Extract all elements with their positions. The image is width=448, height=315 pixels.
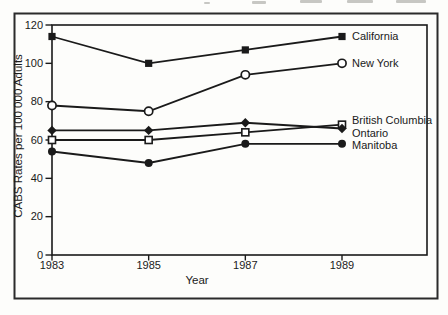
y-tick-label: 40 (31, 172, 43, 184)
cropped-page-text-artifact (347, 0, 373, 3)
x-tick-label: 1987 (233, 259, 257, 271)
new-york-point-1983 (48, 101, 56, 109)
x-tick-label: 1983 (40, 259, 64, 271)
y-axis-title: CABS Rates per 100 000 Adults (12, 54, 24, 218)
series-label-california: California (352, 30, 399, 42)
ontario-point-1987 (241, 118, 250, 127)
california-point-1987 (242, 46, 249, 53)
series-label-ontario: Ontario (352, 127, 388, 139)
y-tick-label: 120 (25, 19, 43, 31)
y-tick-label: 60 (31, 134, 43, 146)
y-tick-label: 80 (31, 95, 43, 107)
new-york-point-1987 (241, 71, 249, 79)
california-point-1989 (338, 33, 345, 40)
series-line-ontario (52, 123, 342, 131)
series-label-british-columbia: British Columbia (352, 114, 433, 126)
cropped-page-text-artifact (252, 1, 266, 4)
scanned-figure-page: 0204060801001201983198519871989YearCABS … (0, 0, 448, 315)
series-line-california (52, 37, 342, 64)
california-point-1985 (145, 60, 152, 67)
series-line-manitoba (52, 144, 342, 163)
ontario-point-1985 (144, 126, 153, 135)
series-label-manitoba: Manitoba (352, 139, 398, 151)
cropped-page-text-artifact (204, 2, 210, 4)
manitoba-point-1983 (48, 148, 56, 156)
ontario-point-1983 (47, 126, 56, 135)
x-axis-title: Year (185, 274, 208, 286)
series-line-new-york (52, 63, 342, 111)
new-york-point-1985 (145, 107, 153, 115)
series-lines-layer (52, 37, 342, 164)
british-columbia-point-1987 (242, 129, 249, 136)
cropped-page-text-artifact (300, 0, 322, 3)
x-tick-label: 1985 (136, 259, 160, 271)
y-tick-label: 100 (25, 57, 43, 69)
cropped-page-text-artifact (396, 0, 426, 3)
manitoba-point-1985 (145, 159, 153, 167)
y-tick-label: 20 (31, 210, 43, 222)
manitoba-point-1987 (241, 140, 249, 148)
manitoba-point-1989 (338, 140, 346, 148)
new-york-point-1989 (338, 59, 346, 67)
british-columbia-point-1983 (49, 137, 56, 144)
series-label-new-york: New York (352, 57, 399, 69)
california-point-1983 (48, 33, 55, 40)
british-columbia-point-1985 (145, 137, 152, 144)
x-tick-label: 1989 (330, 259, 354, 271)
series-markers-california (48, 33, 345, 67)
cabs-rates-line-chart: 0204060801001201983198519871989YearCABS … (0, 0, 448, 315)
